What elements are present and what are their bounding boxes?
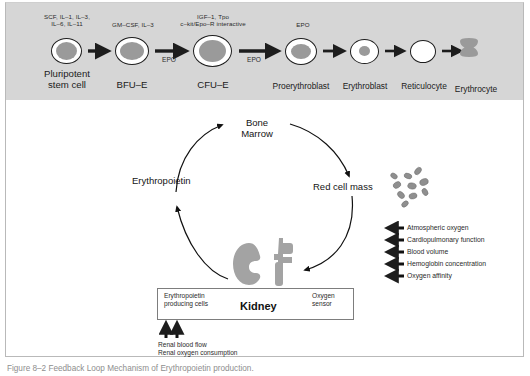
arc-kidney-to-erythropoietin [177, 207, 228, 279]
factor-atmospheric-oxygen: Atmospheric oxygen [407, 224, 469, 232]
factor-blood-volume: Blood volume [407, 248, 448, 256]
figure-caption: Figure 8–2 Feedback Loop Mechanism of Er… [7, 364, 527, 374]
kidney-title: Kidney [240, 300, 277, 312]
kidney-epo-line2: producing cells [164, 300, 208, 308]
node-erythropoietin: Erythropoietin [132, 175, 220, 186]
renal-input-arrows [166, 324, 177, 338]
epo-tag-cfue-to-proery: EPO [247, 56, 261, 63]
arc-bone-marrow-to-red-cell-mass [290, 124, 349, 176]
bone-marrow-line1: Bone [222, 117, 292, 128]
factor-cardiopulmonary-function: Cardiopulmonary function [407, 236, 484, 244]
factor-hemoglobin-concentration: Hemoglobin concentration [407, 260, 486, 268]
kidney-oxygen-line2: sensor [312, 300, 335, 308]
kidney-epo-line1: Erythropoietin [164, 292, 208, 300]
bone-marrow-line2: Marrow [222, 128, 292, 139]
stage-label-proerythroblast: Proerythroblast [266, 82, 336, 92]
arc-red-cell-mass-to-kidney [305, 196, 352, 270]
stage-label-reticulocyte: Reticulocyte [395, 82, 453, 92]
factor-oxygen-affinity: Oxygen affinity [407, 272, 452, 280]
node-bone-marrow: Bone Marrow [222, 117, 292, 139]
stage-label-erythroblast: Erythroblast [335, 82, 395, 92]
node-red-cell-mass: Red cell mass [313, 181, 393, 192]
factor-arrows [388, 228, 404, 276]
renal-input-oxygen-consumption: Renal oxygen consumption [158, 349, 238, 357]
kidney-epo-producing-cells-label: Erythropoietin producing cells [164, 292, 208, 308]
epo-tag-bfue-to-cfue: EPO [162, 56, 176, 63]
stage-label-bfu-e: BFU–E [98, 79, 166, 90]
stage-label-cfu-e: CFU–E [180, 79, 246, 90]
stage-label-stem-line1: Pluripotent [26, 68, 108, 79]
stage-label-erythrocyte: Erythrocyte [448, 85, 504, 95]
stage-label-stem-line2: stem cell [26, 79, 108, 90]
kidney-oxygen-line1: Oxygen [312, 292, 335, 300]
stage-label-pluripotent-stem-cell: Pluripotent stem cell [26, 68, 108, 90]
kidney-illustration [233, 238, 293, 286]
kidney-oxygen-sensor-label: Oxygen sensor [312, 292, 335, 308]
red-blood-cell-cluster [390, 166, 430, 208]
cell-erythrocyte [460, 38, 478, 57]
